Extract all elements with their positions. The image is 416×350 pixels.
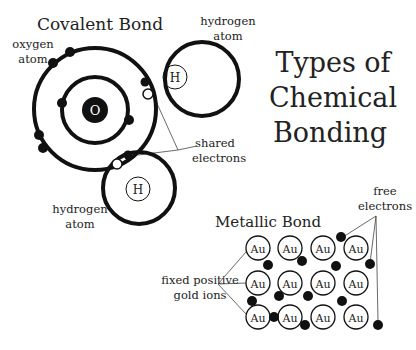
covalent-bond-section: Covalent Bond oxygen atom hydrogen atom … (12, 14, 256, 231)
outer-electron (48, 58, 58, 68)
free-label-line-1: free (373, 184, 397, 198)
gold-ion: Au (246, 305, 270, 329)
svg-text:Au: Au (347, 312, 363, 325)
gold-ion: Au (311, 271, 335, 295)
gold-ion-grid: Au Au Au Au Au Au Au Au Au Au Au Au (246, 236, 368, 329)
free-label-line-2: electrons (358, 199, 412, 213)
free-electron (336, 232, 346, 242)
gold-ion: Au (278, 271, 302, 295)
free-electron (337, 296, 347, 306)
free-electron (373, 320, 383, 330)
free-pointer (343, 216, 376, 237)
free-electron (269, 312, 279, 322)
svg-text:Au: Au (281, 243, 297, 256)
svg-text:Au: Au (314, 312, 330, 325)
free-electron (247, 296, 257, 306)
free-electron (263, 260, 273, 270)
metallic-heading: Metallic Bond (215, 213, 321, 231)
oxygen-label-line-1: oxygen (12, 37, 54, 51)
gold-ion: Au (344, 271, 368, 295)
shared-label-line-1: shared (195, 136, 235, 150)
hydrogen-bottom-symbol: H (133, 183, 143, 197)
gold-ion: Au (311, 305, 335, 329)
inner-electron (57, 98, 67, 108)
free-electron (274, 291, 284, 301)
free-electron (300, 320, 310, 330)
hydrogen-bottom-label-line-2: atom (65, 217, 94, 231)
free-electron (297, 256, 307, 266)
gold-ion: Au (246, 271, 270, 295)
inner-electron (124, 115, 134, 125)
svg-text:Au: Au (281, 278, 297, 291)
oxygen-symbol: O (90, 103, 101, 118)
free-electron (303, 291, 313, 301)
gold-ion: Au (344, 236, 368, 260)
svg-text:Au: Au (347, 243, 363, 256)
main-title: Types of Chemical Bonding (269, 47, 397, 148)
ions-label-line-2: gold ions (174, 288, 227, 302)
gold-ion: Au (278, 305, 302, 329)
svg-text:Au: Au (249, 243, 265, 256)
shared-electron-dark (141, 78, 150, 87)
title-line-1: Types of (275, 47, 392, 78)
svg-text:Au: Au (347, 278, 363, 291)
title-line-3: Bonding (273, 117, 387, 148)
oxygen-label-line-2: atom (18, 52, 47, 66)
hydrogen-top-symbol: H (170, 71, 180, 85)
metallic-bond-section: Metallic Bond free electrons fixed posit… (161, 184, 412, 330)
free-pointer (370, 216, 376, 263)
svg-text:Au: Au (281, 312, 297, 325)
svg-text:Au: Au (249, 278, 265, 291)
hydrogen-bottom-label-line-1: hydrogen (52, 202, 108, 216)
free-pointer (376, 216, 378, 322)
shared-electron-light (112, 159, 122, 169)
shared-electron-light (143, 89, 153, 99)
covalent-heading: Covalent Bond (37, 14, 163, 34)
gold-ion: Au (311, 236, 335, 260)
svg-text:Au: Au (249, 312, 265, 325)
gold-ion: Au (278, 236, 302, 260)
outer-electron (38, 143, 48, 153)
title-line-2: Chemical (269, 82, 397, 113)
free-electron (365, 259, 375, 269)
gold-ion: Au (246, 236, 270, 260)
hydrogen-top-label-line-2: atom (213, 29, 242, 43)
outer-electron (34, 130, 44, 140)
outer-electron (65, 47, 75, 57)
hydrogen-top-label-line-1: hydrogen (200, 14, 256, 28)
svg-text:Au: Au (314, 278, 330, 291)
shared-label-line-2: electrons (192, 151, 246, 165)
gold-ion: Au (344, 305, 368, 329)
svg-text:Au: Au (314, 243, 330, 256)
chemical-bonding-diagram: Types of Chemical Bonding Covalent Bond … (0, 0, 416, 350)
free-electron (331, 261, 341, 271)
ions-label-line-1: fixed positive (161, 273, 239, 287)
shared-electron-dark (124, 151, 133, 160)
